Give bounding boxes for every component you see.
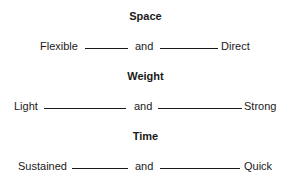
scale-right-label: Strong bbox=[244, 100, 276, 112]
scale-line bbox=[85, 48, 128, 49]
scale-right-label: Direct bbox=[221, 40, 250, 52]
factor-title-time: Time bbox=[0, 130, 291, 142]
scale-connector: and bbox=[135, 40, 153, 52]
factor-title-weight: Weight bbox=[0, 70, 291, 82]
scale-line bbox=[160, 48, 218, 49]
scale-line bbox=[158, 108, 242, 109]
scale-left-label: Flexible bbox=[40, 40, 78, 52]
scale-line bbox=[72, 168, 128, 169]
scale-right-label: Quick bbox=[244, 160, 272, 172]
factor-scale-time: Sustained and Quick bbox=[0, 160, 291, 174]
scale-left-label: Sustained bbox=[18, 160, 67, 172]
factor-scale-space: Flexible and Direct bbox=[0, 40, 291, 54]
factor-scale-weight: Light and Strong bbox=[0, 100, 291, 114]
scale-line bbox=[44, 108, 126, 109]
scale-line bbox=[160, 168, 240, 169]
factor-title-space: Space bbox=[0, 10, 291, 22]
scale-connector: and bbox=[135, 160, 153, 172]
scale-left-label: Light bbox=[14, 100, 38, 112]
scale-connector: and bbox=[134, 100, 152, 112]
